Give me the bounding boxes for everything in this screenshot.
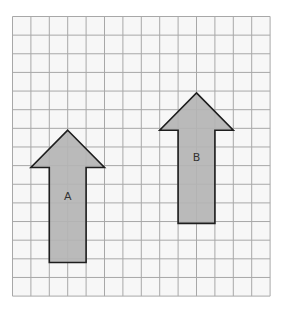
grid-diagram: AB (0, 0, 281, 310)
arrow-label: A (64, 190, 72, 203)
arrow-label: B (193, 151, 201, 164)
